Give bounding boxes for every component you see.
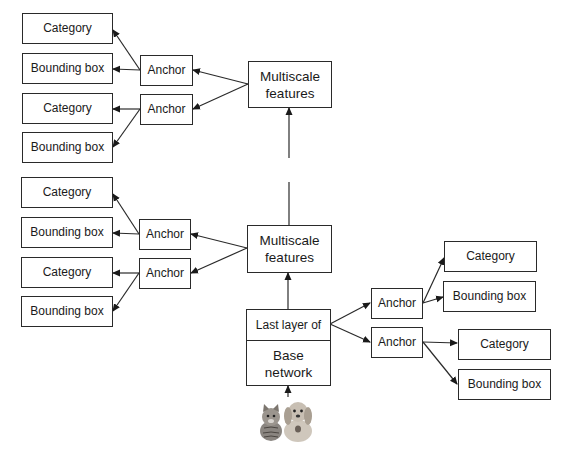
category-box: Category (21, 257, 113, 288)
category-box: Category (22, 93, 113, 124)
bounding-box-box: Bounding box (21, 217, 113, 248)
last-layer-label: Last layer of (247, 310, 330, 341)
bounding-box-box: Bounding box (22, 53, 113, 84)
anchor-box: Anchor (139, 258, 191, 289)
category-box: Category (444, 241, 537, 272)
multiscale-features-box: Multiscale features (248, 61, 332, 108)
bounding-box-box: Bounding box (21, 296, 113, 327)
multiscale-features-box: Multiscale features (247, 225, 332, 273)
bounding-box-box: Bounding box (443, 281, 536, 312)
category-box: Category (21, 177, 113, 208)
anchor-box: Anchor (371, 288, 423, 319)
category-box: Category (458, 329, 551, 360)
anchor-box: Anchor (140, 55, 193, 86)
kitten-icon (260, 404, 282, 441)
cat-and-dog-image (256, 398, 318, 442)
base-network-label: Base network (247, 341, 330, 386)
bounding-box-box: Bounding box (458, 369, 551, 400)
bounding-box-box: Bounding box (22, 132, 113, 163)
anchor-box: Anchor (140, 94, 193, 125)
base-network-box: Last layer of Base network (246, 309, 331, 386)
anchor-box: Anchor (371, 327, 423, 358)
category-box: Category (22, 13, 113, 44)
puppy-icon (284, 402, 312, 442)
anchor-box: Anchor (139, 219, 191, 250)
